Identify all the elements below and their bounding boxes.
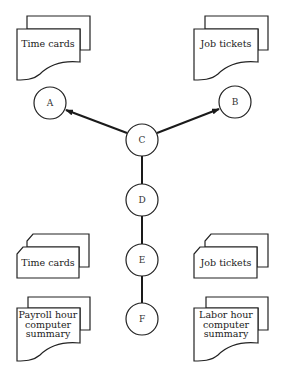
document-stack-labor-summary: Labor hour computer summary — [194, 297, 268, 361]
node-c: C — [126, 124, 158, 156]
document-stack-payroll-summary: Payroll hour computer summary — [17, 297, 90, 361]
node-label: C — [139, 135, 146, 145]
node-label: A — [46, 98, 54, 108]
document-stack-job-tickets: Job tickets — [194, 16, 268, 80]
node-d: D — [126, 184, 158, 216]
summary-line-3: summary — [26, 328, 71, 339]
card-label: Job tickets — [200, 257, 252, 268]
node-label: F — [139, 314, 145, 324]
document-front — [194, 29, 258, 80]
node-label: D — [138, 195, 145, 205]
node-e: E — [126, 244, 158, 276]
node-b: B — [219, 86, 251, 118]
document-front — [17, 29, 80, 80]
summary-line-3: summary — [204, 328, 249, 339]
node-f: F — [126, 303, 158, 335]
flow-diagram: Time cards Job tickets A B C D E F Time … — [0, 0, 283, 375]
edge-c-to-b — [157, 109, 219, 133]
document-label: Time cards — [21, 38, 75, 49]
document-label: Job tickets — [200, 38, 252, 49]
node-label: E — [139, 255, 146, 265]
node-label: B — [232, 97, 239, 107]
card-label: Time cards — [21, 257, 75, 268]
edge-c-to-a — [66, 110, 127, 133]
card-stack-time-cards: Time cards — [17, 234, 89, 278]
node-a: A — [34, 87, 66, 119]
card-stack-job-tickets: Job tickets — [194, 234, 268, 278]
document-stack-time-cards: Time cards — [17, 16, 90, 80]
